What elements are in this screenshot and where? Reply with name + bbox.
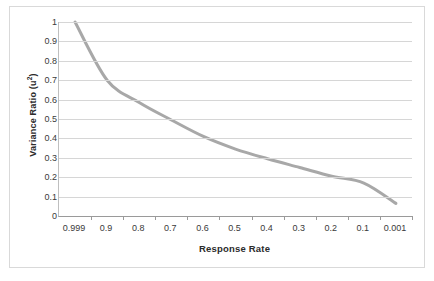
x-axis-tick-label: 0.9 [100, 223, 113, 233]
x-axis-tick-mark [187, 216, 188, 220]
x-axis-tick-mark [123, 216, 124, 220]
y-axis-tick-label: 0 [30, 211, 57, 221]
y-axis-tick-label: 0.6 [30, 95, 57, 105]
gridline [59, 22, 412, 23]
x-axis-tick-mark [155, 216, 156, 220]
x-axis-tick-label: 0.5 [228, 223, 241, 233]
gridline [59, 100, 412, 101]
y-axis-tick-label: 1 [30, 17, 57, 27]
x-axis-tick-label: 0.999 [63, 223, 86, 233]
plot-area [58, 22, 412, 217]
y-axis-tick-label: 0.3 [30, 153, 57, 163]
x-axis-tick-mark [284, 216, 285, 220]
gridline [59, 80, 412, 81]
y-axis-tick-labels: 10.90.80.70.60.50.40.30.20.10 [30, 22, 57, 216]
gridline [59, 177, 412, 178]
x-axis-tick-label: 0.8 [132, 223, 145, 233]
x-axis-tick-label: 0.6 [196, 223, 209, 233]
y-axis-tick-label: 0.8 [30, 56, 57, 66]
gridline [59, 119, 412, 120]
x-axis-tick-label: 0.1 [357, 223, 370, 233]
x-axis-tick-label: 0.001 [384, 223, 407, 233]
gridline [59, 197, 412, 198]
x-axis-tick-mark [380, 216, 381, 220]
x-axis-tick-mark [252, 216, 253, 220]
x-axis-tick-label: 0.7 [164, 223, 177, 233]
gridline [59, 138, 412, 139]
y-axis-tick-label: 0.7 [30, 75, 57, 85]
gridline [59, 158, 412, 159]
x-axis-tick-mark [316, 216, 317, 220]
x-axis-tick-mark [412, 216, 413, 220]
y-axis-tick-label: 0.5 [30, 114, 57, 124]
x-axis-tick-mark [219, 216, 220, 220]
x-axis-tick-label: 0.4 [260, 223, 273, 233]
x-axis-tick-mark [348, 216, 349, 220]
y-axis-tick-label: 0.9 [30, 36, 57, 46]
series-path [75, 22, 396, 203]
y-axis-tick-label: 0.1 [30, 192, 57, 202]
x-axis-tick-label: 0.3 [292, 223, 305, 233]
gridline [59, 41, 412, 42]
y-axis-tick-label: 0.2 [30, 172, 57, 182]
x-axis-tick-label: 0.2 [325, 223, 338, 233]
y-axis-tick-label: 0.4 [30, 133, 57, 143]
x-axis-tick-labels: 0.9990.90.80.70.60.50.40.30.20.10.001 [58, 223, 411, 237]
gridline [59, 61, 412, 62]
chart-container: Variance Ratio (u2) 10.90.80.70.60.50.40… [9, 6, 425, 268]
x-axis-tick-mark [91, 216, 92, 220]
x-axis-title: Response Rate [58, 243, 411, 254]
